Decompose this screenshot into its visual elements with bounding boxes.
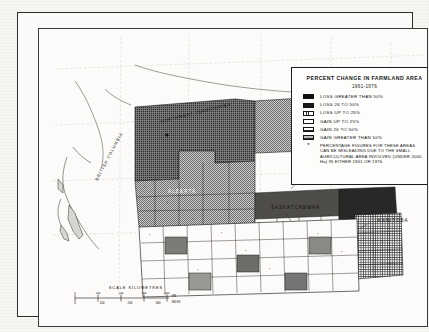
- scale-bar-graphic: 0100 200300 400 0100 200300 KM MILES: [73, 292, 185, 304]
- map-label-alberta: ALBERTA: [168, 189, 196, 194]
- legend-item-gain-greater-than-50: GAIN GREATER THAN 50%: [303, 135, 428, 141]
- legend-label-loss-greater-than-50: LOSS GREATER THAN 50%: [320, 94, 383, 100]
- svg-text:0: 0: [74, 301, 76, 304]
- svg-text:MILES: MILES: [172, 300, 181, 304]
- legend-swatch-gain-26-to-50: [303, 127, 314, 132]
- legend-label-gain-greater-than-50: GAIN GREATER THAN 50%: [320, 135, 382, 141]
- legend-item-gain-26-to-50: GAIN 26 TO 50%: [303, 127, 428, 133]
- legend-label-loss-up-to-25: LOSS UP TO 25%: [320, 110, 360, 116]
- map-label-saskatchewan: SASKATCHEWAN: [271, 205, 320, 210]
- svg-text:100: 100: [95, 292, 100, 295]
- legend-footnote-text: PERCENTAGE FIGURES FOR THESE AREAS CAN B…: [320, 143, 424, 164]
- legend-item-footnote: * PERCENTAGE FIGURES FOR THESE AREAS CAN…: [303, 143, 428, 164]
- svg-text:400: 400: [164, 292, 169, 295]
- map-frame-inner: * * *: [38, 28, 428, 327]
- map-label-manitoba: MANITOBA: [377, 218, 408, 223]
- legend-item-loss-up-to-25: LOSS UP TO 25%: [303, 110, 428, 116]
- scale-bar: SCALE KILOMETRES 0100 200300 400: [73, 285, 185, 304]
- legend-label-gain-26-to-50: GAIN 26 TO 50%: [320, 127, 358, 133]
- legend-item-loss-greater-than-50: LOSS GREATER THAN 50%: [303, 94, 428, 100]
- legend-swatch-gain-greater-than-50: [303, 135, 314, 140]
- legend-swatch-loss-26-to-50: [303, 103, 314, 108]
- map-legend[interactable]: PERCENT CHANGE IN FARMLAND AREA 1961-197…: [291, 67, 428, 185]
- legend-swatch-loss-up-to-25: [303, 111, 314, 116]
- svg-text:200: 200: [127, 301, 132, 304]
- svg-text:200: 200: [118, 292, 123, 295]
- asterisk-icon: *: [303, 143, 314, 148]
- map-frame-outer: * * *: [17, 12, 413, 317]
- legend-label-loss-26-to-50: LOSS 26 TO 50%: [320, 102, 359, 108]
- svg-text:300: 300: [155, 301, 160, 304]
- legend-item-gain-up-to-25: GAIN UP TO 25%: [303, 119, 428, 125]
- legend-title: PERCENT CHANGE IN FARMLAND AREA: [297, 75, 428, 81]
- legend-subtitle: 1961-1976: [297, 84, 428, 89]
- scale-title: SCALE KILOMETRES: [87, 285, 185, 290]
- legend-label-gain-up-to-25: GAIN UP TO 25%: [320, 119, 359, 125]
- svg-text:100: 100: [99, 301, 104, 304]
- bc-islands: [58, 179, 83, 241]
- svg-text:KM: KM: [172, 294, 177, 298]
- svg-text:300: 300: [141, 292, 146, 295]
- svg-text:0: 0: [74, 292, 76, 295]
- legend-swatch-gain-up-to-25: [303, 119, 314, 124]
- legend-item-loss-26-to-50: LOSS 26 TO 50%: [303, 102, 428, 108]
- legend-swatch-loss-greater-than-50: [303, 94, 314, 99]
